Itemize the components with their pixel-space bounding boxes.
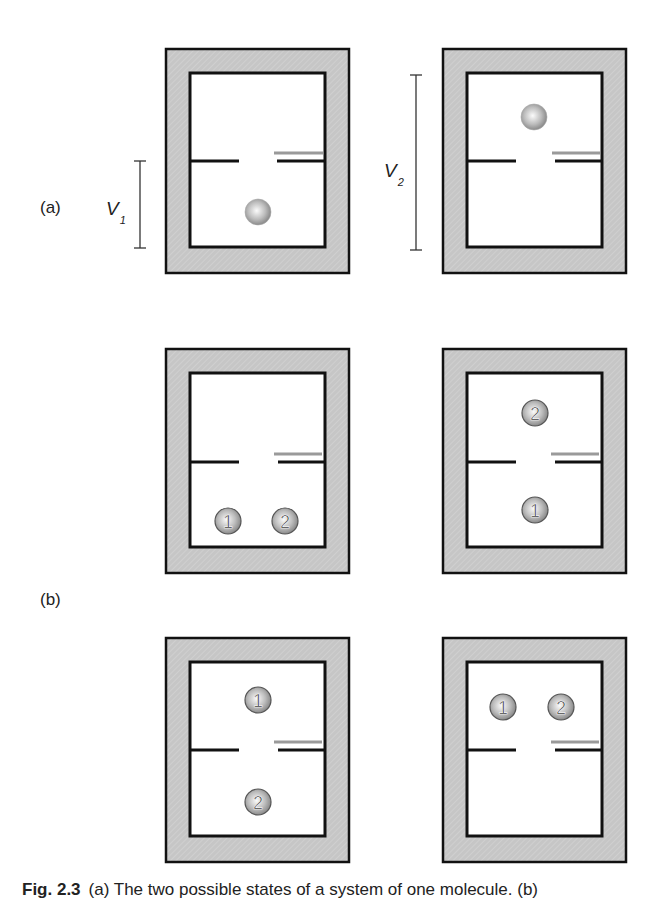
molecule-number: 1: [498, 698, 508, 718]
molecule-number: 1: [253, 691, 263, 711]
molecule-ball: [245, 199, 271, 225]
chamber-b2-right: [443, 638, 626, 862]
molecule-number: 2: [280, 512, 290, 532]
molecule-ball: [521, 104, 547, 130]
molecule-b2-left-2: 2: [245, 789, 271, 815]
molecule-number: 1: [530, 501, 540, 521]
caption-text: (a) The two possible states of a system …: [89, 880, 538, 899]
molecule-b1-right-2: 2: [522, 400, 548, 426]
chamber-b1-right: [443, 349, 626, 573]
molecule-b2-left-1: 1: [245, 687, 271, 713]
molecule-b1-left-2: 2: [272, 508, 298, 534]
chamber-a-right: [443, 49, 626, 273]
molecule-number: 2: [556, 698, 566, 718]
molecule-number: 2: [530, 404, 540, 424]
molecule-number: 2: [253, 793, 263, 813]
figure-caption: Fig. 2.3(a) The two possible states of a…: [22, 880, 538, 900]
chamber-b1-left: [166, 349, 349, 573]
volume-bar-v2: [410, 75, 422, 250]
molecule-b1-right-1: 1: [522, 497, 548, 523]
volume-bar-v1: [134, 161, 146, 248]
molecule-number: 1: [223, 512, 233, 532]
chamber-b2-left: [166, 638, 349, 862]
molecule-b1-left-1: 1: [215, 508, 241, 534]
chamber-a-left: [166, 49, 349, 273]
figure-number: Fig. 2.3: [22, 880, 81, 899]
molecule-b2-right-1: 1: [490, 694, 516, 720]
molecule-b2-right-2: 2: [548, 694, 574, 720]
